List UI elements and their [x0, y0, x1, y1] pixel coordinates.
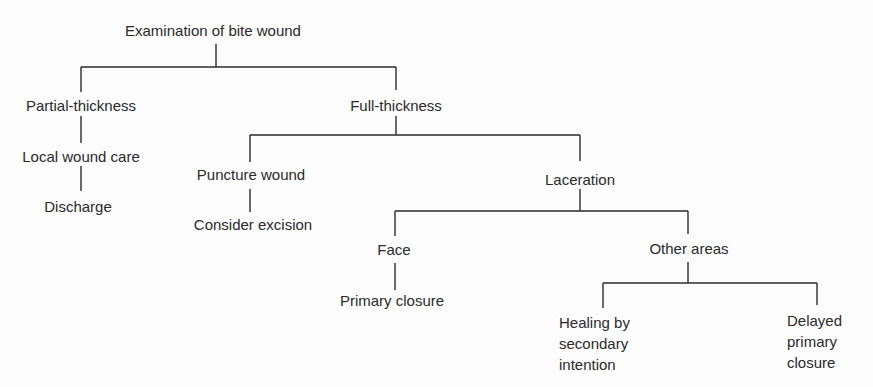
node-delayed-primary-closure: Delayed primary closure: [787, 310, 842, 373]
node-delayed-line-2: primary: [787, 331, 842, 352]
node-other-areas: Other areas: [649, 238, 728, 259]
node-delayed-line-1: Delayed: [787, 310, 842, 331]
node-full-thickness: Full-thickness: [350, 95, 442, 116]
node-laceration: Laceration: [545, 169, 615, 190]
node-healing-line-1: Healing by: [559, 312, 630, 333]
node-local-wound-care: Local wound care: [22, 146, 140, 167]
node-face: Face: [377, 239, 410, 260]
node-delayed-line-3: closure: [787, 352, 842, 373]
node-partial-thickness: Partial-thickness: [26, 95, 136, 116]
decision-tree-diagram: Examination of bite wound Partial-thickn…: [0, 0, 873, 387]
node-discharge: Discharge: [44, 196, 112, 217]
node-primary-closure: Primary closure: [340, 290, 444, 311]
node-root: Examination of bite wound: [125, 20, 301, 41]
node-puncture-wound: Puncture wound: [197, 164, 305, 185]
node-healing-line-2: secondary: [559, 333, 630, 354]
node-consider-excision: Consider excision: [194, 214, 312, 235]
node-healing-line-3: intention: [559, 354, 630, 375]
connector-lines: [0, 0, 873, 387]
node-healing-secondary-intention: Healing by secondary intention: [559, 312, 630, 375]
